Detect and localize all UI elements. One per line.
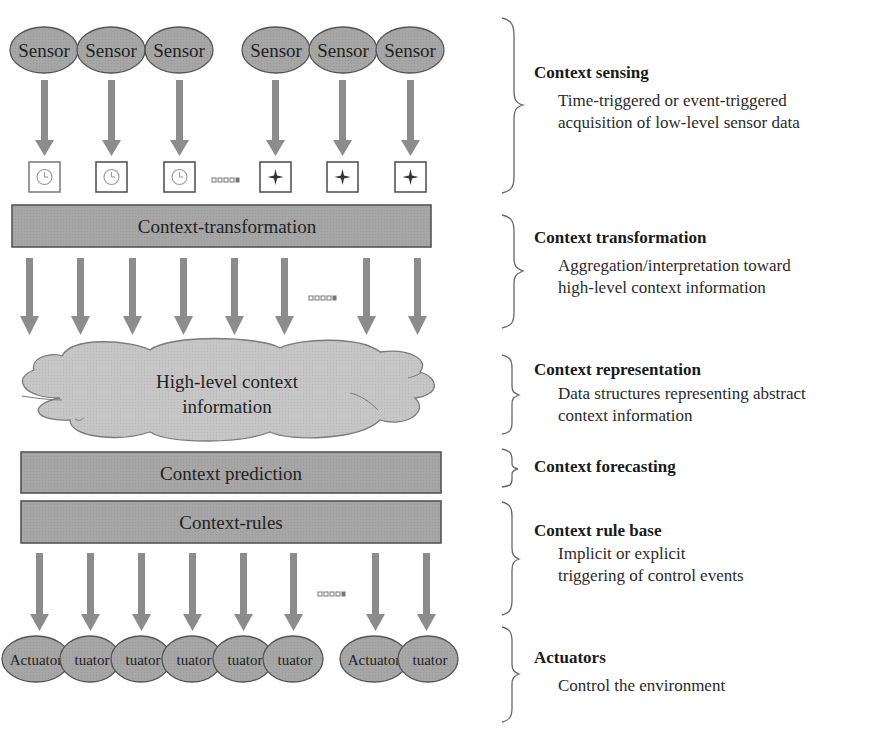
layer-description-line: high-level context information [534,277,791,299]
sensor-node: Sensor [77,27,145,73]
down-arrow-icon [366,553,385,631]
layer-actuators: Actuators Control the environment [534,648,725,697]
event-trigger [260,162,291,192]
down-arrow-icon [284,553,303,631]
actuator-label: Actuator [348,652,400,668]
layer-description-line: acquisition of low-level sensor data [534,112,800,134]
event-trigger [327,162,358,192]
rules-arrows [30,553,436,631]
down-arrow-icon [417,553,436,631]
prediction-bar-label: Context prediction [160,463,302,484]
sensor-label: Sensor [85,40,137,61]
down-arrow-icon [35,80,54,156]
layer-context-forecasting: Context forecasting [534,457,676,477]
layer-context-transformation: Context transformation Aggregation/inter… [534,228,791,299]
brace-icon [502,627,519,722]
down-arrow-icon [20,258,39,335]
rules-bar: Context-rules [21,501,441,543]
sensor-group: Sensor Sensor Sensor Sensor Sensor Senso… [10,27,444,73]
down-arrow-icon [266,80,285,156]
brace-icon [502,215,523,328]
sensor-node: Sensor [10,27,78,73]
sensor-node: Sensor [309,27,377,73]
high-level-context-cloud: High-level context information [22,339,434,442]
actuator-node: tuator [398,636,458,682]
event-trigger [395,162,426,192]
sensor-label: Sensor [153,40,205,61]
down-arrow-icon [71,258,90,335]
actuator-label: tuator [126,652,161,668]
ellipsis-icon [318,592,345,596]
rules-bar-label: Context-rules [179,512,282,533]
brace-icon [502,18,523,193]
ellipsis-icon [212,178,239,182]
down-arrow-icon [225,258,244,335]
time-trigger [29,162,60,192]
down-arrow-icon [102,80,121,156]
ellipsis-icon [309,296,336,300]
actuator-label: tuator [228,652,263,668]
layer-context-sensing: Context sensing Time-triggered or event-… [534,63,800,134]
actuator-label: Actuator [10,652,62,668]
sensor-node: Sensor [145,27,213,73]
actuator-node: tuator [263,636,323,682]
down-arrow-icon [408,258,427,335]
layer-context-representation: Context representation Data structures r… [534,360,806,427]
transformation-bar-label: Context-transformation [138,216,317,237]
down-arrow-icon [357,258,376,335]
layer-description-line: Implicit or explicit [534,543,744,565]
sensor-label: Sensor [384,40,436,61]
layer-braces [502,18,523,722]
time-trigger [164,162,195,192]
brace-icon [502,355,519,434]
transformation-arrows [20,258,427,335]
down-arrow-icon [170,80,189,156]
cloud-label-line2: information [182,396,272,417]
layer-description-line: Time-triggered or event-triggered [534,90,800,112]
brace-icon [502,502,519,615]
sensor-node: Sensor [242,27,310,73]
layer-description-line: context information [534,405,806,427]
down-arrow-icon [132,553,151,631]
down-arrow-icon [333,80,352,156]
down-arrow-icon [234,553,253,631]
actuator-label: tuator [413,652,448,668]
layer-title: Context rule base [534,521,744,541]
sensor-label: Sensor [250,40,302,61]
sensor-label: Sensor [317,40,369,61]
transformation-bar: Context-transformation [12,205,431,247]
layer-title: Context sensing [534,63,800,83]
actuator-group: Actuator tuator tuator tuator tuator tua… [2,636,458,682]
down-arrow-icon [81,553,100,631]
trigger-boxes [29,162,426,192]
layer-title: Context forecasting [534,457,676,477]
layer-title: Actuators [534,648,725,668]
sensor-label: Sensor [18,40,70,61]
layer-description-line: Aggregation/interpretation toward [534,255,791,277]
time-trigger [96,162,127,192]
layer-title: Context transformation [534,228,791,248]
layer-title: Context representation [534,360,806,380]
sensor-node: Sensor [376,27,444,73]
down-arrow-icon [174,258,193,335]
down-arrow-icon [183,553,202,631]
layer-description-line: Control the environment [534,675,725,697]
cloud-label-line1: High-level context [156,371,299,392]
actuator-label: tuator [278,652,313,668]
layer-context-rule-base: Context rule base Implicit or explicit t… [534,521,744,587]
layer-description-line: Data structures representing abstract [534,383,806,405]
prediction-bar: Context prediction [21,452,441,493]
layer-description-line: triggering of control events [534,565,744,587]
sensor-arrows [35,80,420,156]
down-arrow-icon [401,80,420,156]
actuator-label: tuator [75,652,110,668]
down-arrow-icon [275,258,294,335]
brace-icon [502,449,518,487]
actuator-label: tuator [177,652,212,668]
down-arrow-icon [30,553,49,631]
down-arrow-icon [123,258,142,335]
